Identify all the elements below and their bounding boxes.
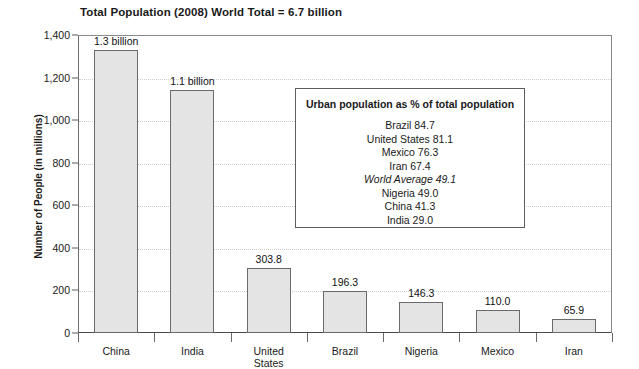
- bar-value-label: 303.8: [256, 253, 282, 265]
- x-tick-mark: [612, 333, 613, 342]
- y-tick-label: 0: [10, 327, 70, 339]
- bar-value-label: 146.3: [408, 287, 434, 299]
- bar[interactable]: [552, 319, 596, 333]
- bar-value-label: 65.9: [564, 304, 584, 316]
- x-tick-mark: [231, 333, 232, 342]
- x-category-label: United States: [254, 345, 284, 369]
- x-category-label: Nigeria: [405, 345, 438, 357]
- x-tick-mark: [459, 333, 460, 342]
- bar[interactable]: [247, 268, 291, 333]
- annotation-row: Nigeria 49.0: [296, 187, 524, 201]
- annotation-row: Mexico 76.3: [296, 146, 524, 160]
- x-tick-mark: [78, 333, 79, 342]
- y-tick-label: 400: [10, 242, 70, 254]
- bar-group[interactable]: 1.3 billion: [94, 35, 138, 333]
- bar-group[interactable]: 65.9: [552, 35, 596, 333]
- x-tick-mark: [307, 333, 308, 342]
- y-tick-label: 1,400: [10, 29, 70, 41]
- x-category-label: Mexico: [481, 345, 514, 357]
- y-tick-label: 800: [10, 157, 70, 169]
- y-tick-label: 1,000: [10, 114, 70, 126]
- annotation-title: Urban population as % of total populatio…: [296, 98, 524, 110]
- annotation-row: India 29.0: [296, 214, 524, 228]
- bar-value-label: 1.1 billion: [170, 75, 214, 87]
- x-category-label: Brazil: [332, 345, 358, 357]
- x-category-label: China: [102, 345, 129, 357]
- annotation-list: Brazil 84.7United States 81.1Mexico 76.3…: [296, 119, 524, 227]
- bar-group[interactable]: 1.1 billion: [170, 35, 214, 333]
- bar[interactable]: [94, 50, 138, 333]
- bar-value-label: 196.3: [332, 276, 358, 288]
- annotation-row: China 41.3: [296, 200, 524, 214]
- x-category-label: India: [181, 345, 204, 357]
- x-tick-mark: [383, 333, 384, 342]
- annotation-row: United States 81.1: [296, 133, 524, 147]
- y-tick-label: 600: [10, 199, 70, 211]
- bar[interactable]: [170, 90, 214, 333]
- chart-title: Total Population (2008) World Total = 6.…: [80, 6, 342, 18]
- x-category-label: Iran: [565, 345, 583, 357]
- y-tick-label: 1,200: [10, 72, 70, 84]
- bar-value-label: 110.0: [485, 295, 511, 307]
- annotation-box: Urban population as % of total populatio…: [295, 88, 525, 228]
- bar[interactable]: [476, 310, 520, 333]
- annotation-row: Brazil 84.7: [296, 119, 524, 133]
- x-tick-mark: [154, 333, 155, 342]
- annotation-row: World Average 49.1: [296, 173, 524, 187]
- bar[interactable]: [323, 291, 367, 333]
- x-tick-mark: [536, 333, 537, 342]
- y-tick-label: 200: [10, 284, 70, 296]
- bar[interactable]: [399, 302, 443, 333]
- bar-value-label: 1.3 billion: [94, 35, 138, 47]
- annotation-row: Iran 67.4: [296, 160, 524, 174]
- x-axis: ChinaIndiaUnited StatesBrazilNigeriaMexi…: [78, 333, 612, 365]
- bar-group[interactable]: 303.8: [247, 35, 291, 333]
